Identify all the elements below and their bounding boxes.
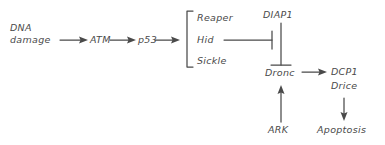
edge-p53-to-rhs-group [155,37,180,44]
node-dna-damage-line1: DNA [10,22,32,33]
edge-diap1-inhibits-dronc [271,23,291,65]
edge-dna-damage-to-atm [60,37,88,44]
edge-atm-to-p53 [110,37,136,44]
node-p53: p53 [138,34,157,45]
node-dna-damage: DNA damage [10,22,51,46]
node-drice: Drice [331,80,357,91]
edge-hid-inhibits-diap1 [224,31,272,49]
node-hid: Hid [197,34,214,45]
node-dcp1: DCP1 [331,66,358,77]
node-atm: ATM [90,34,111,45]
node-reaper: Reaper [197,12,233,23]
node-dronc: Dronc [265,67,295,78]
node-dna-damage-line2: damage [10,34,51,45]
node-apoptosis: Apoptosis [317,124,366,135]
group-bracket-rhs [187,11,193,67]
diagram-canvas: DNA damage ATM p53 Reaper Hid Sickle DIA… [0,0,385,145]
edge-dronc-to-dcp1 [302,69,327,76]
edge-dcp1-to-apoptosis [341,98,348,121]
node-diap1: DIAP1 [263,9,293,20]
node-ark: ARK [268,124,288,135]
edge-ark-to-dronc [278,85,285,122]
node-sickle: Sickle [197,55,227,66]
